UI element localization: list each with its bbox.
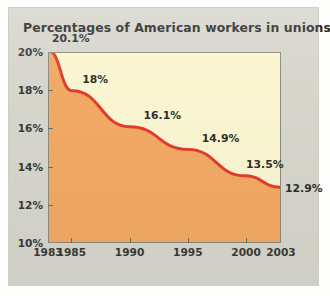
x-axis-label-1985: 1985 xyxy=(51,247,91,257)
x-tick-1990 xyxy=(130,238,131,243)
data-label-2000: 13.5% xyxy=(246,159,283,170)
chart-panel: Percentages of American workers in union… xyxy=(9,8,318,285)
y-axis-label-14%: 14% xyxy=(9,162,43,172)
data-label-1995: 14.9% xyxy=(202,133,239,144)
y-tick-16% xyxy=(48,128,53,129)
y-tick-12% xyxy=(48,205,53,206)
x-tick-2000 xyxy=(246,238,247,243)
y-axis-label-18%: 18% xyxy=(9,85,43,95)
y-tick-14% xyxy=(48,167,53,168)
x-axis-label-2003: 2003 xyxy=(261,247,301,257)
data-label-1985: 18% xyxy=(82,74,108,85)
y-axis-label-12%: 12% xyxy=(9,200,43,210)
chart-figure: Percentages of American workers in union… xyxy=(0,0,330,296)
x-axis-label-1990: 1990 xyxy=(110,247,150,257)
y-axis-label-20%: 20% xyxy=(9,47,43,57)
x-axis-label-1995: 1995 xyxy=(168,247,208,257)
y-tick-18% xyxy=(48,90,53,91)
x-tick-1985 xyxy=(71,238,72,243)
data-label-2003: 12.9% xyxy=(285,183,322,194)
y-axis-label-16%: 16% xyxy=(9,123,43,133)
data-label-1983: 20.1% xyxy=(52,33,89,44)
data-label-1990: 16.1% xyxy=(144,110,181,121)
x-tick-1995 xyxy=(188,238,189,243)
